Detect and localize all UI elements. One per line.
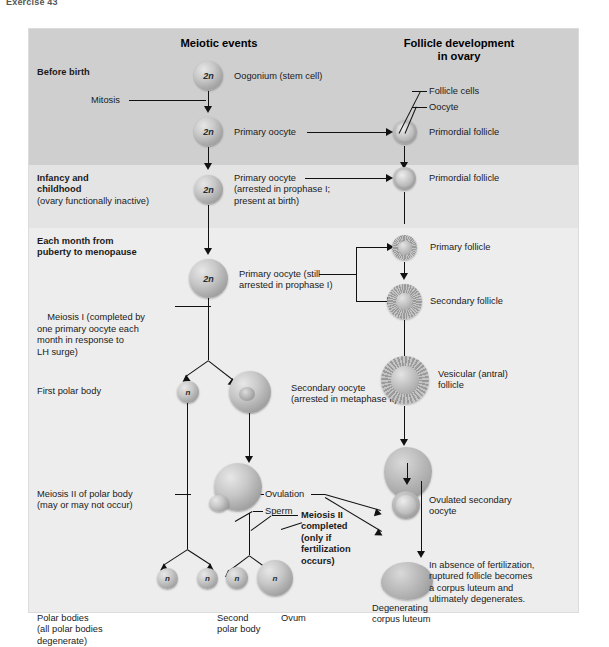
- line-primary2-down: [208, 205, 209, 251]
- secondary-follicle-graphic: [387, 284, 422, 319]
- arrow-primary2-down-head: [204, 248, 212, 255]
- primary-oocyte-1-ploidy: 2n: [203, 127, 214, 137]
- meiosis-ii-leader-h: [272, 515, 298, 516]
- vesicular-follicle-graphic: [381, 356, 429, 404]
- arrow-vesicular-to-ruptured-head: [400, 439, 408, 446]
- second-polar-body-cell: n: [226, 567, 248, 589]
- arrow-to-corpus-luteum-head: [417, 551, 425, 558]
- label-ovum: Ovum: [281, 613, 306, 624]
- label-secondary-follicle: Secondary follicle: [430, 296, 503, 307]
- label-degenerating-corpus-luteum: Degenerating corpus luteum: [372, 603, 430, 626]
- polar-body-b-ploidy: n: [205, 574, 210, 583]
- label-oocyte: Oocyte: [429, 102, 458, 113]
- line-secondary-oocyte-down: [249, 413, 250, 459]
- primary-oocyte-cell-2: 2n: [194, 175, 223, 204]
- branch-stem-h: [319, 274, 357, 275]
- secondary-follicle-oocyte: [396, 293, 414, 311]
- arrow-to-primordial-2-head: [386, 174, 393, 182]
- stage-label-infancy-childhood: Infancy and childhood: [37, 173, 89, 196]
- label-follicle-cells: Follicle cells: [429, 86, 479, 97]
- line-ruptured-to-corpus-luteum: [421, 481, 422, 554]
- ovulation-inner-head: [403, 478, 411, 485]
- label-primordial-follicle-2: Primordial follicle: [429, 173, 499, 184]
- branch-stem-v: [356, 247, 357, 302]
- first-polar-body-cell: n: [177, 381, 199, 403]
- label-mitosis: Mitosis: [91, 95, 120, 106]
- sperm-graphic: [209, 495, 229, 512]
- label-vesicular-follicle: Vesicular (antral) follicle: [438, 369, 508, 392]
- label-polar-bodies: Polar bodies (all polar bodies degenerat…: [37, 613, 103, 647]
- arrow-oogonium-to-primary-head: [204, 106, 212, 113]
- primary-oocyte-cell-1: 2n: [194, 117, 223, 146]
- ovulated-secondary-oocyte-graphic: [392, 491, 420, 519]
- meiosis-i-leader-line: [175, 306, 211, 307]
- primary-oocyte-cell-3: 2n: [189, 259, 228, 298]
- label-first-polar-body: First polar body: [37, 386, 101, 397]
- primary-follicle-oocyte: [398, 241, 412, 255]
- first-polar-body-ploidy: n: [186, 388, 191, 397]
- mitosis-leader-line: [129, 100, 206, 101]
- ovum-ploidy: n: [273, 574, 278, 583]
- stage-label-before-birth: Before birth: [37, 67, 90, 78]
- stage-sublabel-infancy-childhood: (ovary functionally inactive): [37, 196, 149, 207]
- arrow-to-primordial-2-line: [305, 178, 387, 179]
- line-secondary-to-vesicular: [404, 320, 405, 356]
- column-header-follicle-development: Follicle development in ovary: [369, 37, 549, 63]
- stage-label-puberty-menopause: Each month from puberty to menopause: [37, 236, 137, 259]
- line-vesicular-to-ruptured: [404, 406, 405, 442]
- ovulation-leader-right: [311, 494, 325, 495]
- oogenesis-figure: Meiotic events Follicle development in o…: [29, 29, 578, 612]
- line-oocyte-to-bottom: [249, 513, 250, 555]
- ovum-cell: n: [257, 560, 293, 596]
- label-second-polar-body: Second polar body: [217, 613, 260, 636]
- second-polar-body-ploidy: n: [235, 574, 240, 583]
- primary-oocyte-2-ploidy: 2n: [203, 185, 214, 195]
- label-primordial-follicle-1: Primordial follicle: [429, 127, 499, 138]
- polar-body-a-cell: n: [157, 568, 178, 589]
- primary-follicle-graphic: [392, 235, 417, 260]
- label-ovulated-secondary-oocyte: Ovulated secondary oocyte: [429, 495, 512, 518]
- primary-oocyte-3-ploidy: 2n: [203, 274, 214, 284]
- vesicular-follicle-antrum: [391, 366, 420, 395]
- meiosis-ii-polar-leader: [175, 494, 191, 495]
- label-meiosis-ii-completed: Meiosis II completed (only if fertilizat…: [301, 510, 351, 567]
- label-meiosis-i-lead: Meiosis I: [47, 312, 84, 322]
- label-ovulation: Ovulation: [265, 489, 304, 500]
- arrow-to-primordial-1-head: [386, 128, 393, 136]
- oogonium-cell: 2n: [194, 61, 223, 90]
- branch-down-h: [356, 301, 388, 302]
- arrow-secondary-oocyte-down-head: [245, 456, 253, 463]
- label-corpus-luteum-note: In absence of fertilization, ruptured fo…: [429, 560, 534, 606]
- column-header-meiotic-events: Meiotic events: [129, 37, 309, 50]
- line-primordial2-down: [404, 192, 405, 224]
- line-meiosis-i-stem: [208, 298, 209, 360]
- oogonium-ploidy: 2n: [203, 71, 214, 81]
- degenerating-corpus-luteum-graphic: [381, 562, 433, 600]
- label-primary-oocyte-1: Primary oocyte: [234, 127, 296, 138]
- line-first-polar-body-down: [187, 403, 188, 549]
- arrow-primary1-down-head: [204, 163, 212, 170]
- polar-body-b-cell: n: [197, 568, 218, 589]
- primordial-follicle-graphic-2: [393, 167, 416, 190]
- sperm-leader-h: [253, 511, 263, 512]
- polar-body-a-ploidy: n: [165, 574, 170, 583]
- arrow-to-primordial-1-line: [307, 132, 387, 133]
- branch-up-h: [356, 247, 388, 248]
- secondary-oocyte-nucleus: [239, 387, 255, 401]
- label-oogonium: Oogonium (stem cell): [234, 71, 322, 82]
- page-caption: Exercise 43: [6, 0, 58, 7]
- label-primary-follicle: Primary follicle: [430, 242, 490, 253]
- label-meiosis-ii-polar-body: Meiosis II of polar body (may or may not…: [37, 489, 133, 512]
- secondary-oocyte-cell: [229, 371, 271, 413]
- label-primary-oocyte-3: Primary oocyte (still arrested in propha…: [239, 269, 333, 292]
- arrow-primary-to-secondary-head: [400, 273, 408, 280]
